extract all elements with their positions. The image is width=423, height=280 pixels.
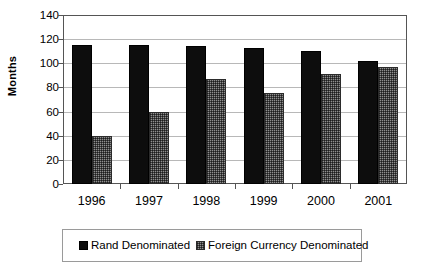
x-axis-tick-mark xyxy=(178,184,179,189)
y-axis-tick-label: 80 xyxy=(19,82,59,92)
bar-2001-foreign xyxy=(378,67,398,184)
x-axis-tick-mark xyxy=(292,184,293,189)
y-axis-tick-label: 100 xyxy=(19,58,59,68)
bar-1996-foreign xyxy=(92,136,112,184)
x-axis-tick-label-1998: 1998 xyxy=(176,194,236,208)
x-axis-tick-label-1997: 1997 xyxy=(119,194,179,208)
y-axis-tick-label: 140 xyxy=(19,10,59,20)
x-axis-tick-label-1996: 1996 xyxy=(62,194,122,208)
chart-legend: Rand DenominatedForeign Currency Denomin… xyxy=(62,229,362,262)
x-axis-tick-label-2000: 2000 xyxy=(291,194,351,208)
bar-1999-foreign xyxy=(264,93,284,184)
legend-label: Rand Denominated xyxy=(91,239,190,251)
bar-1999-rand xyxy=(244,48,264,184)
y-axis-tick-label: 0 xyxy=(19,179,59,189)
bar-chart: Months 140120100806040200 19961997199819… xyxy=(0,0,423,280)
bar-1998-rand xyxy=(186,46,206,184)
legend-entry-0: Rand Denominated xyxy=(79,239,190,251)
bar-1997-rand xyxy=(129,45,149,184)
bars-layer xyxy=(63,15,407,184)
x-axis-tick-label-1999: 1999 xyxy=(234,194,294,208)
bar-2000-foreign xyxy=(321,74,341,184)
legend-entry-1: Foreign Currency Denominated xyxy=(196,239,368,251)
bar-1997-foreign xyxy=(149,112,169,184)
y-axis-tick-label: 60 xyxy=(19,107,59,117)
y-axis-tick-label: 20 xyxy=(19,155,59,165)
x-axis-tick-mark xyxy=(120,184,121,189)
bar-2001-rand xyxy=(358,61,378,184)
y-axis-tick-label: 120 xyxy=(19,34,59,44)
bar-1996-rand xyxy=(72,45,92,184)
x-axis-tick-label-2001: 2001 xyxy=(348,194,408,208)
gray-checker-square-icon xyxy=(196,241,205,250)
black-square-icon xyxy=(79,241,88,250)
y-axis-tick-mark xyxy=(58,184,63,185)
legend-label: Foreign Currency Denominated xyxy=(208,239,368,251)
bar-2000-rand xyxy=(301,51,321,184)
x-axis-tick-mark xyxy=(350,184,351,189)
y-axis-tick-label: 40 xyxy=(19,131,59,141)
x-axis-tick-mark xyxy=(235,184,236,189)
bar-1998-foreign xyxy=(206,79,226,184)
y-axis-title: Months xyxy=(6,36,18,116)
